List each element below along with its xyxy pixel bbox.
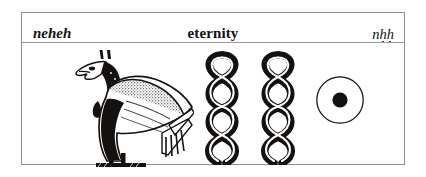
translit-letter-n: n: [372, 26, 379, 42]
figure-panel: neheh eternity nhh: [21, 12, 405, 165]
transliteration-label-right: nhh: [372, 27, 394, 42]
sun-disk-glyph: [305, 65, 375, 135]
caption-row: neheh eternity nhh: [22, 13, 404, 42]
glyph-row: [22, 43, 404, 164]
twisted-wick-glyph-1: [194, 51, 250, 165]
vulture-glyph: [74, 49, 194, 167]
twisted-wick-glyph-2: [250, 51, 306, 165]
translit-letter-h-dot-2: h: [387, 27, 394, 42]
translit-letter-h-dot-1: h: [380, 27, 387, 42]
hieroglyph-figure: neheh eternity nhh: [0, 0, 426, 177]
meaning-label: eternity: [22, 26, 404, 41]
